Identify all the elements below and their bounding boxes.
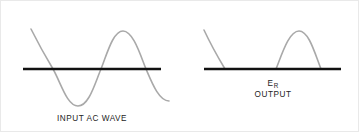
er-output-panel [204,30,341,69]
waveform-diagram: INPUT AC WAVE ER OUTPUT [0,0,359,132]
output-partial-hump-curve [204,30,225,69]
input-ac-wave-label: INPUT AC WAVE [1,114,183,123]
input-ac-sine-curve [31,29,169,106]
er-symbol-subscript: R [274,82,279,89]
output-word: OUTPUT [199,90,347,101]
output-full-hump-curve [276,31,321,69]
er-output-label-group: ER OUTPUT [199,79,347,100]
er-symbol-letter: E [268,79,274,88]
input-ac-wave-panel [23,29,169,106]
waveform-canvas [1,1,359,132]
er-symbol: ER [199,79,347,90]
